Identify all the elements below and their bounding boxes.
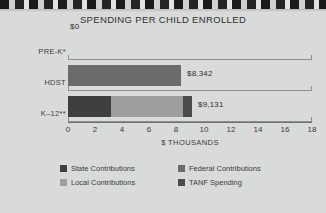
- bar-track-k12: [68, 96, 312, 117]
- legend-item-state-contributions: State Contributions: [60, 164, 135, 173]
- bar-hdst: [68, 65, 181, 86]
- x-tick-14: 14: [246, 125, 270, 134]
- baseline-hdst: [68, 86, 312, 91]
- x-tick-16: 16: [273, 125, 297, 134]
- x-tick-4: 4: [110, 125, 134, 134]
- x-tick-18: 18: [300, 125, 324, 134]
- bar-segment-federal-hdst: [68, 65, 181, 86]
- category-label-k12: K–12**: [0, 109, 66, 118]
- legend-label-state: State Contributions: [71, 164, 135, 173]
- scan-edge-strip: [0, 0, 326, 9]
- bar-k12: [68, 96, 192, 117]
- bar-segment-state-k12: [68, 96, 111, 117]
- chart-title: SPENDING PER CHILD ENROLLED: [0, 14, 326, 25]
- bar-segment-local-k12: [111, 96, 183, 117]
- baseline-prek: [68, 55, 312, 60]
- legend-swatch-local: [60, 179, 67, 186]
- x-tick-12: 12: [219, 125, 243, 134]
- bar-value-k12: $9,131: [198, 100, 224, 109]
- legend-swatch-state: [60, 165, 67, 172]
- legend-item-local-contributions: Local Contributions: [60, 178, 135, 187]
- legend-item-federal-contributions: Federal Contributions: [178, 164, 261, 173]
- category-label-hdst: HDST: [0, 78, 66, 87]
- legend-swatch-tanf: [178, 179, 185, 186]
- x-tick-2: 2: [83, 125, 107, 134]
- plot-area: PRE-K* $0 HDST $8,342 K–12**: [0, 30, 326, 142]
- x-axis-title: $ THOUSANDS: [68, 138, 312, 147]
- bar-segment-tanf-k12: [183, 96, 192, 117]
- bar-track-prek: [68, 34, 312, 55]
- chart-legend: State Contributions Federal Contribution…: [0, 164, 326, 204]
- legend-item-tanf-spending: TANF Spending: [178, 178, 242, 187]
- bar-value-prek: $0: [70, 22, 79, 31]
- x-axis-line: [68, 122, 312, 123]
- bar-value-hdst: $8,342: [187, 69, 213, 78]
- x-tick-8: 8: [164, 125, 188, 134]
- spending-per-child-chart: SPENDING PER CHILD ENROLLED PRE-K* $0 HD…: [0, 12, 326, 213]
- legend-label-local: Local Contributions: [71, 178, 135, 187]
- bar-row-prek: PRE-K* $0: [0, 30, 326, 60]
- legend-swatch-federal: [178, 165, 185, 172]
- x-tick-10: 10: [192, 125, 216, 134]
- legend-label-federal: Federal Contributions: [189, 164, 261, 173]
- bar-row-k12: K–12** $9,131: [0, 92, 326, 122]
- category-label-prek: PRE-K*: [0, 47, 66, 56]
- bar-row-hdst: HDST $8,342: [0, 61, 326, 91]
- legend-label-tanf: TANF Spending: [189, 178, 242, 187]
- x-tick-6: 6: [137, 125, 161, 134]
- x-tick-0: 0: [56, 125, 80, 134]
- x-axis-tick-labels: 0 2 4 6 8 10 12 14 16 18: [0, 125, 326, 137]
